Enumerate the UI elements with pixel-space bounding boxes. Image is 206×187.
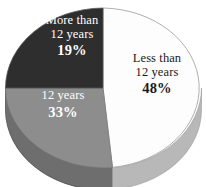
slice-top-12-years — [6, 88, 113, 168]
slice-top-more-than-12-years — [6, 8, 104, 88]
pie-chart: More than 12 years 19% 12 years 33% Less… — [0, 0, 206, 187]
pie-chart-graphic — [0, 0, 206, 187]
